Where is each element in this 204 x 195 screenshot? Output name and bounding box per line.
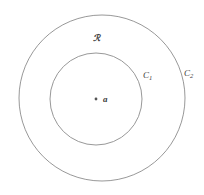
inner-circle-label-subscript: 1	[149, 74, 152, 81]
outer-circle-label: C2	[184, 69, 193, 80]
center-point-label: a	[103, 95, 108, 104]
outer-circle	[19, 15, 185, 181]
diagram-canvas	[0, 0, 204, 195]
center-point-dot	[95, 98, 98, 101]
outer-circle-label-subscript: 2	[190, 72, 193, 79]
inner-circle-label: C1	[143, 71, 152, 82]
annulus-diagram: ℛ C1 C2 a	[0, 0, 204, 195]
region-label: ℛ	[93, 34, 100, 43]
